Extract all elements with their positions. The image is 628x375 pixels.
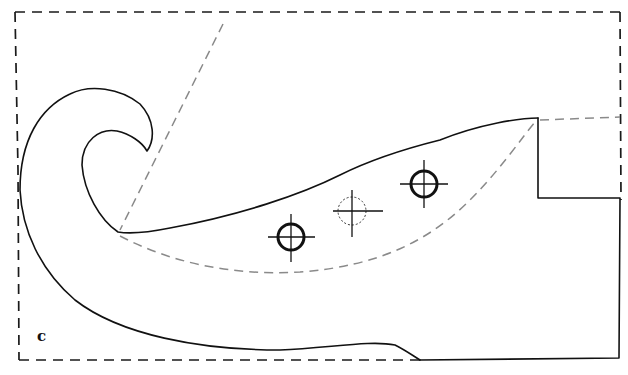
hole-marker-right xyxy=(400,160,448,208)
scroll-template-diagram xyxy=(0,0,628,375)
blank-outline-right-upper xyxy=(620,12,621,200)
blank-outline-left xyxy=(15,12,19,360)
panel-label: c xyxy=(37,327,46,345)
guide-line-diagonal xyxy=(120,24,223,230)
guide-line-lower-arc xyxy=(120,122,535,273)
hole-marker-middle xyxy=(333,190,383,237)
scroll-outer-contour xyxy=(20,89,538,360)
hole-marker-left xyxy=(268,214,315,262)
guide-line-right-horizontal xyxy=(540,117,620,120)
neck-block-outline xyxy=(420,118,620,360)
